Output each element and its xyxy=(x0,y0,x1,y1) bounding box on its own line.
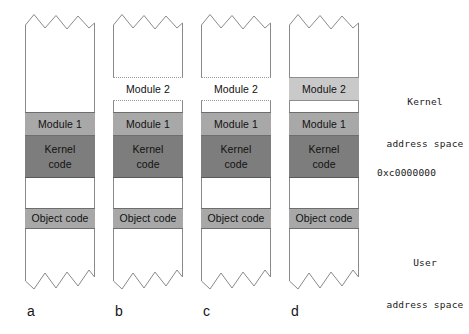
band-label: Object code xyxy=(207,211,264,225)
band-module-2: Module 2 xyxy=(113,77,183,101)
user-address-space-line1: User xyxy=(383,256,467,270)
band-kernel-code: Kernel code xyxy=(113,136,183,178)
column-letter-c: c xyxy=(203,303,273,319)
band-label-line2: code xyxy=(48,157,71,171)
band-label: Module 2 xyxy=(126,82,170,96)
band-label: Module 1 xyxy=(302,117,346,131)
column-letter-b: b xyxy=(115,303,185,319)
kernel-address-space-label: Kernel address space xyxy=(383,66,467,180)
band-label: Module 1 xyxy=(38,117,82,131)
band-object-code: Object code xyxy=(201,208,271,229)
band-object-code: Object code xyxy=(25,208,95,229)
band-module-1: Module 1 xyxy=(25,112,95,136)
band-label-line1: Kernel xyxy=(45,142,76,156)
band-object-code: Object code xyxy=(289,208,359,229)
band-label: Module 2 xyxy=(302,82,346,96)
band-label-line2: code xyxy=(312,157,335,171)
kernel-address-space-line1: Kernel xyxy=(383,95,467,109)
column-letter-a: a xyxy=(27,303,97,319)
user-address-space-label: User address space xyxy=(383,227,467,334)
band-label: Module 1 xyxy=(214,117,258,131)
band-label-line2: code xyxy=(136,157,159,171)
column-letter-d: d xyxy=(291,303,361,319)
band-kernel-code: Kernel code xyxy=(201,136,271,178)
band-module-1: Module 1 xyxy=(289,112,359,136)
band-module-2: Module 2 xyxy=(201,77,271,101)
band-label-line1: Kernel xyxy=(133,142,164,156)
band-label-line2: code xyxy=(224,157,247,171)
boundary-address-label: 0xc0000000 xyxy=(377,166,436,180)
memory-layout-diagram: Module 1 Kernel code Object code a Modul… xyxy=(0,0,469,334)
band-label: Module 1 xyxy=(126,117,170,131)
band-module-2: Module 2 xyxy=(289,77,359,101)
band-object-code: Object code xyxy=(113,208,183,229)
band-module-1: Module 1 xyxy=(113,112,183,136)
band-kernel-code: Kernel code xyxy=(289,136,359,178)
user-address-space-line2: address space xyxy=(383,298,467,312)
band-label-line1: Kernel xyxy=(309,142,340,156)
band-label: Object code xyxy=(31,211,88,225)
band-kernel-code: Kernel code xyxy=(25,136,95,178)
kernel-address-space-line2: address space xyxy=(383,137,467,151)
band-label: Object code xyxy=(295,211,352,225)
band-label-line1: Kernel xyxy=(221,142,252,156)
band-label: Module 2 xyxy=(214,82,258,96)
band-module-1: Module 1 xyxy=(201,112,271,136)
band-label: Object code xyxy=(119,211,176,225)
